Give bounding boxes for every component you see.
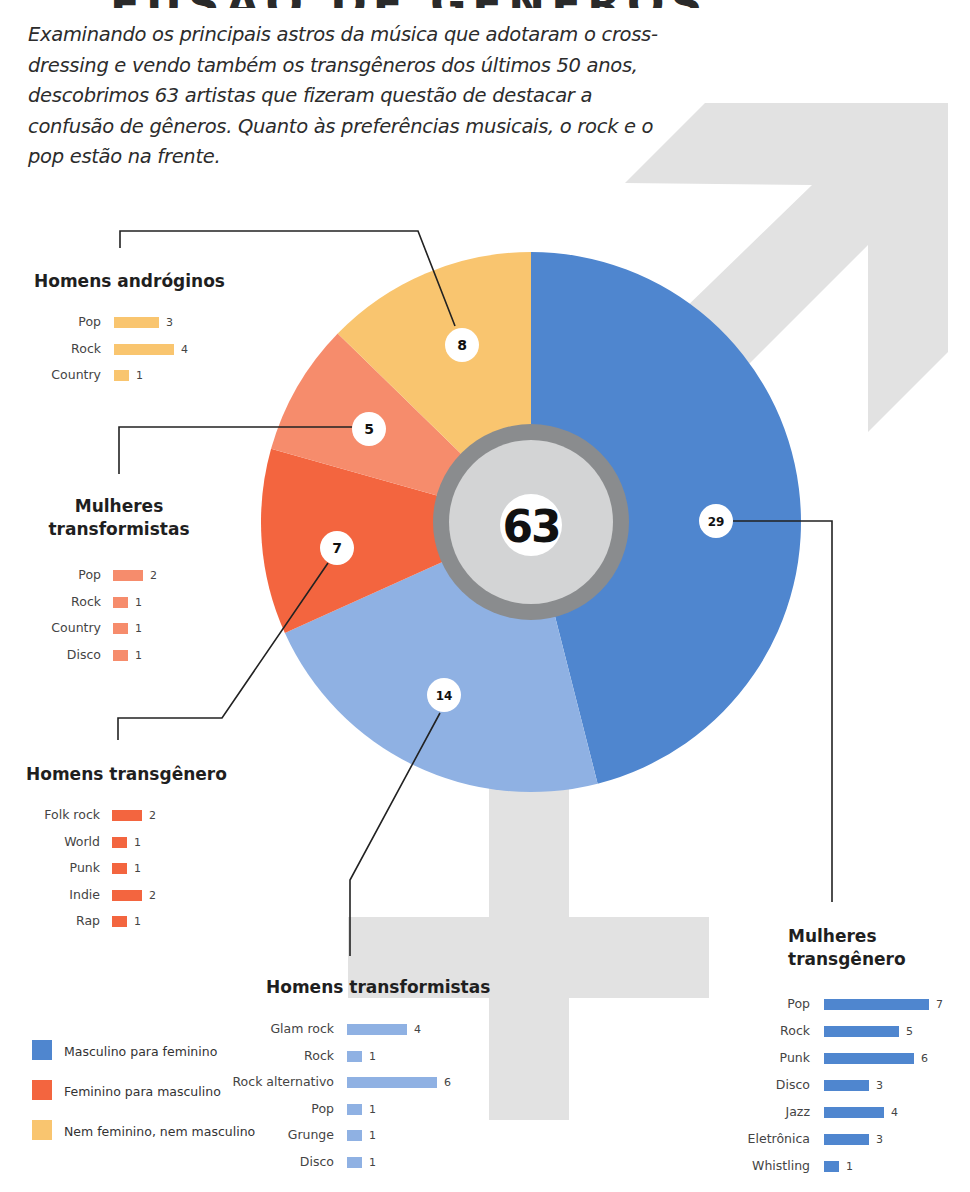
bar-label: Rap (76, 913, 100, 928)
bar (824, 1161, 839, 1172)
bar-label: Glam rock (270, 1021, 334, 1036)
bar (347, 1024, 407, 1035)
bar (824, 1026, 899, 1037)
bar-value: 2 (149, 889, 156, 902)
total-count: 63 (502, 501, 559, 552)
bar (112, 837, 127, 848)
bar-label: Rock (71, 341, 101, 356)
bar-label: Punk (70, 860, 100, 875)
bar (113, 650, 128, 661)
bar (112, 916, 127, 927)
bar-value: 1 (369, 1050, 376, 1063)
slice-value-label: 29 (708, 515, 725, 529)
slice-value-label: 7 (332, 540, 342, 556)
bar-value: 1 (846, 1160, 853, 1173)
bar-label: Grunge (288, 1127, 334, 1142)
group-title-homens-transgenero: Homens transgênero (26, 763, 227, 786)
bar-label: Disco (67, 647, 101, 662)
bar-value: 1 (134, 862, 141, 875)
bar (824, 1134, 869, 1145)
bar-value: 1 (134, 915, 141, 928)
bar-value: 1 (134, 836, 141, 849)
bar (347, 1051, 362, 1062)
bar-label: Punk (780, 1050, 810, 1065)
bar-value: 5 (906, 1025, 913, 1038)
bar-label: Eletrônica (748, 1131, 810, 1146)
bar-label: Rock (71, 594, 101, 609)
bar-label: Disco (300, 1154, 334, 1169)
bar-value: 3 (166, 316, 173, 329)
bar-label: Pop (787, 996, 810, 1011)
bar (113, 570, 143, 581)
bar-label: Indie (69, 887, 100, 902)
bar (347, 1157, 362, 1168)
group-title-homens-transformistas: Homens transformistas (266, 976, 490, 999)
bar-label: Country (51, 620, 101, 635)
bar (113, 597, 128, 608)
slice-value-label: 8 (457, 337, 467, 353)
bar (114, 370, 129, 381)
bar-value: 3 (876, 1079, 883, 1092)
legend-label: Masculino para feminino (64, 1044, 217, 1059)
bar-label: Pop (311, 1101, 334, 1116)
bar (824, 1107, 884, 1118)
bar (347, 1130, 362, 1141)
group-title-mulheres-transformistas: Mulheres transformistas (46, 495, 192, 541)
bar-value: 4 (414, 1023, 421, 1036)
group-title-mulheres-transgenero: Mulheres transgênero (788, 925, 898, 971)
bar-label: Rock (780, 1023, 810, 1038)
bar-value: 1 (135, 596, 142, 609)
bar-label: Folk rock (44, 807, 100, 822)
bar-value: 4 (181, 343, 188, 356)
bar-value: 7 (936, 998, 943, 1011)
bar (112, 810, 142, 821)
bar-value: 1 (135, 649, 142, 662)
bar-label: Pop (78, 314, 101, 329)
bar-label: Disco (776, 1077, 810, 1092)
bar-value: 2 (149, 809, 156, 822)
bar-label: World (64, 834, 100, 849)
bar-value: 4 (891, 1106, 898, 1119)
bar-value: 6 (921, 1052, 928, 1065)
bar-label: Whistling (752, 1158, 810, 1173)
bar (114, 317, 159, 328)
bar (347, 1077, 437, 1088)
bar-label: Country (51, 367, 101, 382)
group-title-homens-androginos: Homens andróginos (34, 270, 225, 293)
bar-label: Pop (78, 567, 101, 582)
legend-swatch (32, 1040, 52, 1060)
legend-label: Nem feminino, nem masculino (64, 1124, 255, 1139)
legend-swatch (32, 1120, 52, 1140)
slice-value-label: 14 (436, 689, 453, 703)
bar-label: Rock alternativo (232, 1074, 334, 1089)
bar-label: Rock (304, 1048, 334, 1063)
bar (824, 999, 929, 1010)
bar-value: 6 (444, 1076, 451, 1089)
bar (824, 1053, 914, 1064)
bar-value: 1 (135, 622, 142, 635)
bar-label: Jazz (786, 1104, 810, 1119)
bar (112, 890, 142, 901)
legend-swatch (32, 1080, 52, 1100)
infographic-canvas: 63 2914758 (0, 0, 970, 1192)
bar (112, 863, 127, 874)
bar-value: 3 (876, 1133, 883, 1146)
intro-paragraph: Examinando os principais astros da músic… (28, 20, 668, 173)
bar-value: 1 (369, 1103, 376, 1116)
legend-label: Feminino para masculino (64, 1084, 221, 1099)
bar-value: 1 (369, 1129, 376, 1142)
bar (113, 623, 128, 634)
bar (114, 344, 174, 355)
slice-value-label: 5 (364, 421, 374, 437)
bar (824, 1080, 869, 1091)
bar-value: 2 (150, 569, 157, 582)
page-title: FUSÃO DE GÊNEROS (110, 0, 708, 8)
bar (347, 1104, 362, 1115)
bar-value: 1 (136, 369, 143, 382)
bar-value: 1 (369, 1156, 376, 1169)
